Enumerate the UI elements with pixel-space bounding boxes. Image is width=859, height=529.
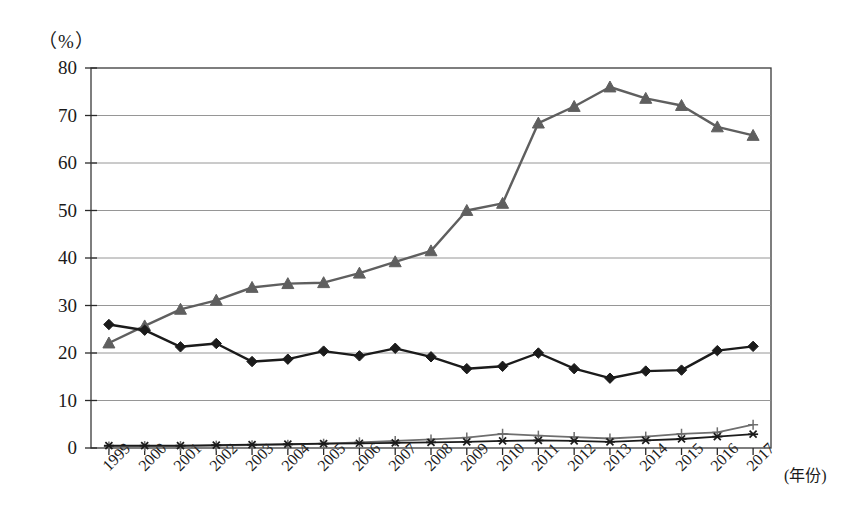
data-point-marker-diamond <box>175 342 185 352</box>
data-point-marker-diamond <box>569 363 579 373</box>
data-point-marker-diamond <box>641 366 651 376</box>
data-point-marker-diamond <box>318 346 328 356</box>
data-point-marker-diamond <box>283 354 293 364</box>
series-series-plus-gray <box>104 420 758 452</box>
data-point-marker-diamond <box>390 343 400 353</box>
data-point-marker-diamond <box>462 363 472 373</box>
data-point-marker-triangle <box>568 100 580 111</box>
plot-area <box>0 0 859 529</box>
series-line <box>109 87 753 343</box>
data-point-marker-diamond <box>211 338 221 348</box>
data-point-marker-diamond <box>605 373 615 383</box>
data-point-marker-diamond <box>104 319 114 329</box>
data-point-marker-diamond <box>247 356 257 366</box>
series-series-diamond-dark <box>104 319 759 383</box>
data-point-marker-diamond <box>712 345 722 355</box>
data-point-marker-diamond <box>497 361 507 371</box>
data-point-marker-triangle <box>497 197 509 208</box>
data-point-marker-plus <box>533 431 543 441</box>
data-point-marker-diamond <box>748 341 758 351</box>
data-point-marker-plus <box>748 420 758 430</box>
data-point-marker-diamond <box>676 365 686 375</box>
data-point-marker-diamond <box>533 348 543 358</box>
data-point-marker-star <box>748 431 758 438</box>
data-point-marker-plus <box>498 429 508 439</box>
data-point-marker-triangle <box>604 81 616 92</box>
data-point-marker-triangle <box>532 117 544 128</box>
data-point-marker-plus <box>677 429 687 439</box>
data-point-marker-triangle <box>103 337 115 348</box>
chart-container: （%） (年份) 01020304050607080 1999200020012… <box>0 0 859 529</box>
data-point-marker-diamond <box>354 351 364 361</box>
series-series-triangle-gray <box>103 81 759 348</box>
data-point-marker-triangle <box>711 121 723 132</box>
data-point-marker-plus <box>390 436 400 446</box>
